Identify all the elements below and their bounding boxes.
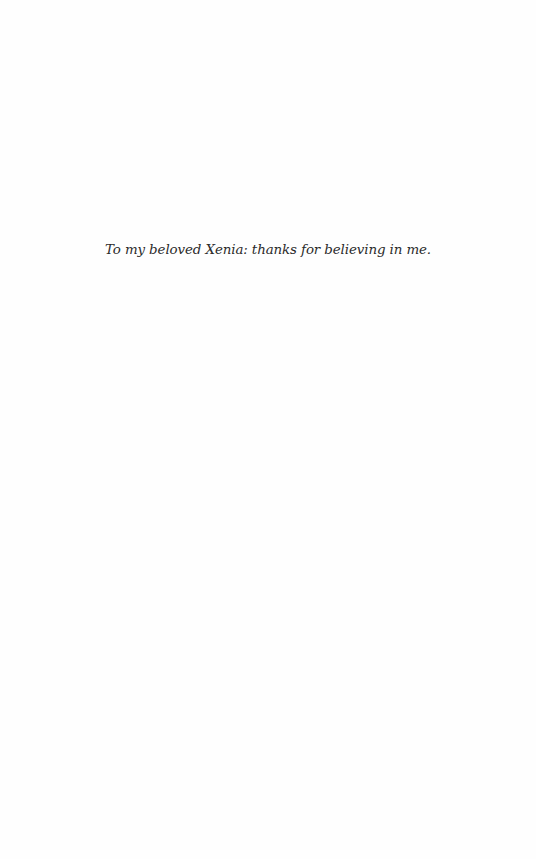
book-page: To my beloved Xenia: thanks for believin… (0, 0, 536, 859)
dedication-text: To my beloved Xenia: thanks for believin… (0, 241, 536, 259)
